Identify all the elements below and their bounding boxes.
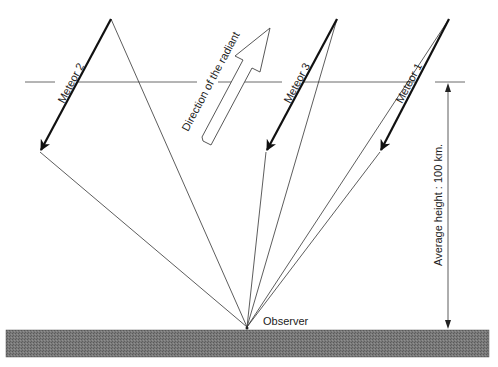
observer-label: Observer — [263, 315, 309, 327]
height-label: Average height : 100 km. — [432, 144, 444, 266]
height-dimension-arrow — [445, 83, 451, 329]
sight-line-meteor-1-end — [247, 152, 380, 327]
meteor-trails — [41, 19, 449, 150]
observer-point — [246, 327, 249, 330]
meteor-1-trail — [381, 19, 449, 150]
meteor-radiant-diagram: Meteor 2 Meteor 3 Meteor 1 Direction of … — [0, 0, 498, 367]
sight-line-meteor-2-end — [40, 152, 247, 327]
sight-line-meteor-3-end — [247, 152, 266, 327]
sight-line-meteor-2-start — [111, 19, 247, 327]
diagram-svg: Meteor 2 Meteor 3 Meteor 1 Direction of … — [0, 0, 498, 367]
meteor-2-label: Meteor 2 — [55, 61, 86, 105]
ground — [6, 330, 489, 357]
meteor-3-label: Meteor 3 — [281, 61, 312, 105]
